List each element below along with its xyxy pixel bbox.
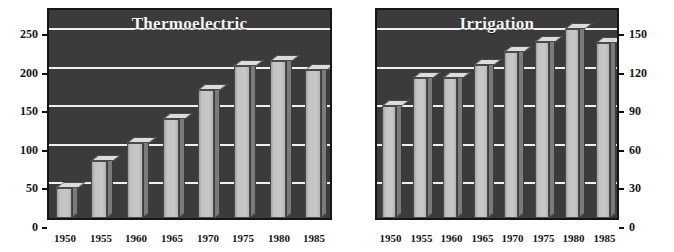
y-tick-label: 100	[20, 143, 38, 158]
bar-front-face	[127, 143, 143, 218]
bar	[198, 90, 214, 219]
bar	[163, 119, 179, 218]
bar-side-face	[143, 139, 149, 218]
plot-area-irrigation: Irrigation	[375, 8, 619, 220]
y-tick-label: 90	[629, 104, 641, 119]
x-tick-label: 1985	[296, 232, 332, 244]
y-tick-mark	[42, 34, 47, 36]
bar-front-face	[443, 78, 457, 218]
bar-front-face	[198, 90, 214, 219]
bar-front-face	[163, 119, 179, 218]
bar-front-face	[504, 52, 518, 218]
x-tick-label: 1980	[261, 232, 297, 244]
x-axis-irrigation: 19501955196019651970197519801985	[375, 232, 619, 248]
bar	[382, 106, 396, 218]
y-tick-mark	[619, 34, 624, 36]
bar	[596, 43, 610, 218]
bar	[56, 188, 72, 218]
y-tick-label: 30	[629, 181, 641, 196]
bar-side-face	[457, 73, 463, 218]
y-tick-label: 60	[629, 143, 641, 158]
bar	[413, 78, 427, 218]
bar	[474, 65, 488, 218]
x-tick-label: 1985	[589, 232, 620, 244]
x-tick-label: 1965	[154, 232, 190, 244]
y-tick-mark	[42, 73, 47, 75]
bar	[504, 52, 518, 218]
y-tick-label: 120	[629, 66, 647, 81]
bar-side-face	[488, 60, 494, 218]
y-tick-mark	[42, 227, 47, 229]
x-tick-label: 1975	[528, 232, 559, 244]
x-tick-label: 1980	[558, 232, 589, 244]
bar	[270, 61, 286, 218]
bar	[443, 78, 457, 218]
bar	[565, 29, 579, 218]
bar-side-face	[518, 47, 524, 218]
bar-side-face	[72, 183, 78, 218]
x-tick-label: 1950	[47, 232, 83, 244]
bar-front-face	[596, 43, 610, 218]
x-tick-label: 1960	[118, 232, 154, 244]
y-tick-mark	[619, 227, 624, 229]
bar-side-face	[107, 156, 113, 218]
y-tick-mark	[619, 188, 624, 190]
x-axis-thermoelectric: 19501955196019651970197519801985	[47, 232, 332, 248]
bar-side-face	[321, 66, 327, 218]
bar-side-face	[427, 73, 433, 218]
bar-side-face	[579, 24, 585, 218]
y-tick-label: 200	[20, 66, 38, 81]
figure-container: ay Thermoelectric 050100150200250 195019…	[0, 0, 674, 252]
bar	[91, 161, 107, 218]
y-tick-mark	[619, 150, 624, 152]
bar-front-face	[413, 78, 427, 218]
bar-side-face	[179, 114, 185, 218]
y-tick-label: 250	[20, 27, 38, 42]
bar-front-face	[535, 42, 549, 218]
y-tick-mark	[619, 111, 624, 113]
bar-side-face	[610, 38, 616, 218]
x-tick-label: 1970	[497, 232, 528, 244]
y-tick-label: 150	[629, 27, 647, 42]
x-tick-label: 1975	[225, 232, 261, 244]
y-tick-mark	[42, 188, 47, 190]
chart-panel-irrigation: Irrigation 0306090120150 195019551960196…	[375, 8, 619, 220]
y-tick-label: 0	[629, 220, 635, 235]
bar	[535, 42, 549, 218]
bar	[305, 70, 321, 218]
y-tick-mark	[42, 111, 47, 113]
bar-side-face	[286, 56, 292, 218]
bar-series-thermoelectric	[49, 10, 330, 218]
bar-front-face	[382, 106, 396, 218]
x-tick-label: 1970	[190, 232, 226, 244]
x-tick-label: 1965	[467, 232, 498, 244]
bar-front-face	[305, 70, 321, 218]
y-tick-mark	[619, 73, 624, 75]
x-tick-label: 1955	[83, 232, 119, 244]
y-tick-label: 150	[20, 104, 38, 119]
bar-front-face	[474, 65, 488, 218]
bar-front-face	[91, 161, 107, 218]
bar-side-face	[214, 85, 220, 218]
bar-side-face	[549, 37, 555, 218]
bar-side-face	[250, 62, 256, 218]
bar-front-face	[270, 61, 286, 218]
bar-front-face	[565, 29, 579, 218]
bar-series-irrigation	[377, 10, 617, 218]
x-tick-label: 1955	[406, 232, 437, 244]
plot-area-thermoelectric: Thermoelectric	[47, 8, 332, 220]
bar-side-face	[396, 101, 402, 218]
y-tick-label: 50	[26, 181, 38, 196]
bar	[127, 143, 143, 218]
x-tick-label: 1960	[436, 232, 467, 244]
y-tick-label: 0	[32, 220, 38, 235]
y-tick-mark	[42, 150, 47, 152]
bar	[234, 66, 250, 218]
bar-front-face	[234, 66, 250, 218]
chart-panel-thermoelectric: Thermoelectric 050100150200250 195019551…	[47, 8, 332, 220]
bar-front-face	[56, 188, 72, 218]
x-tick-label: 1950	[375, 232, 406, 244]
